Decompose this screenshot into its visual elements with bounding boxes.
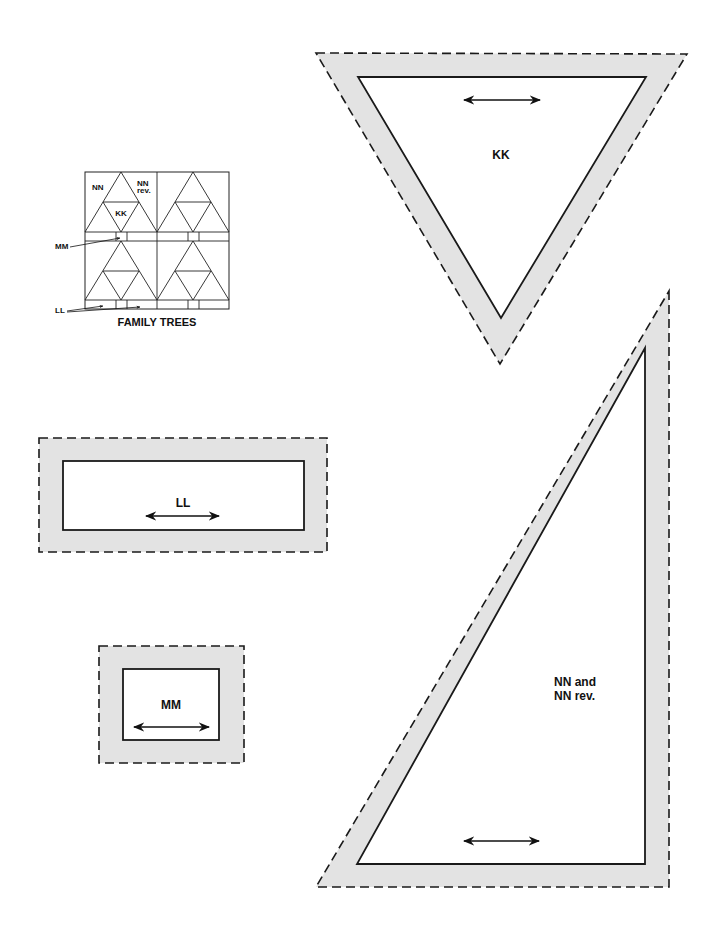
template-mm: MM	[99, 646, 244, 763]
legend-label-mm: MM	[55, 242, 69, 251]
ll-label: LL	[176, 496, 191, 510]
kk-label: KK	[492, 148, 510, 162]
nn-label-line1: NN and	[554, 675, 596, 689]
template-ll: LL	[39, 438, 327, 552]
legend-title: FAMILY TREES	[118, 316, 197, 328]
nn-label-line2: NN rev.	[554, 689, 595, 703]
legend-label-nn-rev-suffix: rev.	[137, 186, 151, 195]
template-kk: KK	[316, 53, 687, 364]
legend-label-kk: KK	[115, 209, 127, 218]
mm-label: MM	[161, 698, 181, 712]
family-trees-legend: NN NN rev. KK MM LL FAMILY TREES	[55, 172, 229, 328]
legend-label-ll: LL	[55, 306, 65, 315]
quilt-template-sheet: NN NN rev. KK MM LL FAMILY TREES KK LL M…	[0, 0, 715, 935]
nn-cutting-line	[357, 348, 645, 864]
legend-label-nn: NN	[92, 183, 104, 192]
template-nn: NN and NN rev.	[316, 291, 669, 887]
